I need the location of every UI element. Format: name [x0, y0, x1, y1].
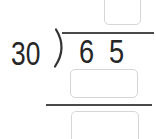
dividend-digit-ones: 5 — [109, 34, 124, 68]
product-input-box[interactable] — [70, 69, 138, 98]
long-division-worksheet: 30 6 5 — [0, 0, 156, 139]
dividend-digit-tens: 6 — [79, 34, 94, 68]
division-vinculum-line — [62, 32, 154, 34]
remainder-input-box[interactable] — [71, 111, 139, 139]
subtraction-line — [46, 104, 152, 106]
division-bracket-icon — [51, 26, 71, 70]
quotient-input-box[interactable] — [104, 0, 141, 25]
divisor-value: 30 — [11, 37, 40, 70]
